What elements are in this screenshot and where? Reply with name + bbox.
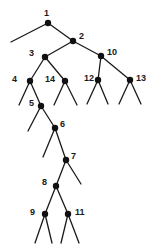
tree-node-13 (127, 77, 133, 83)
tree-edge (98, 80, 108, 104)
tree-edge (55, 128, 66, 160)
tree-node-14 (62, 78, 68, 84)
tree-node-label-14: 14 (45, 75, 55, 84)
tree-node-9 (42, 211, 48, 217)
tree-node-label-11: 11 (75, 208, 85, 217)
tree-node-label-9: 9 (30, 208, 35, 217)
tree-edge (56, 160, 66, 186)
tree-edge (11, 23, 48, 42)
tree-node-label-6: 6 (60, 120, 65, 129)
tree-node-5 (38, 103, 44, 109)
tree-node-4 (27, 78, 33, 84)
tree-edge (65, 81, 77, 105)
tree-edge (30, 57, 45, 81)
tree-node-label-10: 10 (107, 48, 117, 57)
tree-edge (54, 81, 65, 105)
tree-edge (45, 41, 73, 57)
tree-node-label-12: 12 (84, 74, 94, 83)
tree-node-12 (95, 77, 101, 83)
tree-edge (73, 41, 101, 56)
tree-node-label-3: 3 (29, 49, 34, 58)
tree-edge (45, 214, 52, 243)
tree-edge (66, 160, 81, 184)
tree-edge (45, 186, 56, 214)
tree-edge (61, 214, 68, 243)
tree-node-label-1: 1 (44, 9, 49, 18)
tree-node-label-2: 2 (79, 32, 84, 41)
tree-node-8 (53, 183, 59, 189)
tree-edge (35, 214, 45, 243)
node-layer (27, 20, 133, 217)
tree-node-6 (52, 125, 58, 131)
tree-edge (119, 80, 130, 104)
tree-edge (56, 186, 68, 214)
tree-node-label-5: 5 (29, 99, 34, 108)
tree-edge (98, 56, 101, 80)
tree-edge (68, 214, 79, 243)
tree-node-label-7: 7 (71, 152, 76, 161)
tree-node-2 (70, 38, 76, 44)
tree-edge (28, 106, 41, 131)
tree-edge (43, 128, 55, 157)
tree-edge (130, 80, 141, 104)
binary-tree-diagram: 1231041412135678911 (0, 0, 153, 252)
tree-node-11 (65, 211, 71, 217)
tree-node-1 (45, 20, 51, 26)
tree-node-label-4: 4 (12, 75, 17, 84)
tree-node-label-13: 13 (136, 74, 146, 83)
tree-node-label-8: 8 (42, 178, 47, 187)
tree-edge (101, 56, 130, 80)
tree-node-7 (63, 157, 69, 163)
tree-edge (87, 80, 98, 104)
tree-edge (41, 106, 55, 128)
tree-edge (48, 23, 73, 41)
tree-node-10 (98, 53, 104, 59)
tree-node-3 (42, 54, 48, 60)
